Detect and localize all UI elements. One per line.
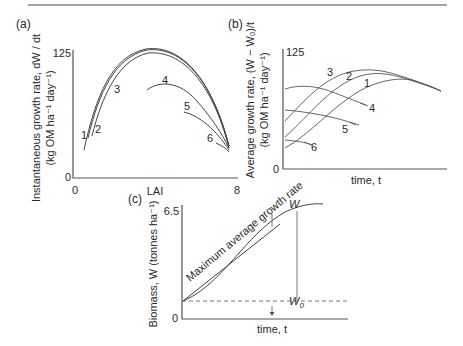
panel-a-ylabel-line2: (kg OM ha⁻¹ day⁻¹) [44, 70, 56, 165]
figure-canvas: (a) Instantaneous growth rate, dW / dt (… [0, 0, 463, 346]
panel-b-leader-4 [360, 103, 368, 106]
panel-a-label-1: 1 [81, 129, 87, 141]
panel-c-tangent-label: Maximum average growth rate [184, 179, 306, 284]
panel-b-ytick-125: 125 [286, 46, 304, 58]
panel-a-curve-4 [147, 84, 229, 148]
panel-c-ytick-6-5: 6.5 [164, 205, 179, 217]
panel-a: (a) Instantaneous growth rate, dW / dt (… [16, 17, 240, 202]
panel-a-curve-5 [184, 112, 229, 150]
panel-c-ytick-0: 0 [172, 312, 178, 324]
panel-c-w-label: W [289, 198, 301, 210]
panel-a-xtick-0: 0 [72, 184, 78, 196]
panel-b-curve-6 [285, 140, 312, 145]
panel-b-label-5: 5 [342, 123, 348, 135]
panel-a-xtick-8: 8 [234, 184, 240, 196]
panel-a-label-6: 6 [207, 132, 213, 144]
panel-b-curve-4 [285, 86, 366, 105]
panel-b-ytick-0: 0 [273, 163, 279, 175]
panel-a-ytick-125: 125 [53, 47, 71, 59]
panel-a-label: (a) [16, 17, 31, 31]
panel-a-label-5: 5 [184, 100, 190, 112]
panel-c: (c) Biomass, W (tonnes ha⁻¹) 6.5 0 time,… [128, 179, 348, 335]
panel-b-ylabel-line2: (kg OM ha⁻¹ day⁻¹) [258, 52, 270, 147]
panel-a-ytick-0: 0 [65, 171, 71, 183]
panel-a-label-3: 3 [114, 83, 120, 95]
panel-c-w0-sub: 0 [299, 301, 304, 310]
panel-b-label-6: 6 [311, 141, 317, 153]
panel-b-label-1: 1 [364, 77, 370, 89]
panel-b-curve-3 [285, 70, 441, 121]
panel-a-label-4: 4 [162, 74, 168, 86]
panel-c-w0-label: W0 [289, 295, 304, 310]
panel-b-axes [283, 49, 447, 169]
panel-a-xlabel: LAI [147, 185, 164, 197]
panel-a-axes [73, 50, 238, 178]
panel-b-label-3: 3 [327, 66, 333, 78]
panel-b: (b) Average growth rate, (W − W₀)/t (kg … [228, 17, 447, 186]
panel-b-xlabel: time, t [351, 174, 381, 186]
panel-a-ylabel-line1: Instantaneous growth rate, dW / dt [30, 34, 42, 202]
panel-b-label-2: 2 [346, 70, 352, 82]
panel-c-ylabel: Biomass, W (tonnes ha⁻¹) [147, 200, 159, 327]
panel-b-ylabel-line1: Average growth rate, (W − W₀)/t [244, 22, 256, 178]
panel-c-label: (c) [128, 192, 142, 206]
panel-b-label: (b) [228, 17, 243, 31]
panel-a-label-2: 2 [95, 123, 101, 135]
panel-c-arrow-down-icon [270, 312, 275, 316]
panel-b-curve-2 [285, 73, 441, 137]
panel-b-label-4: 4 [369, 102, 375, 114]
panel-c-xlabel: time, t [257, 323, 287, 335]
